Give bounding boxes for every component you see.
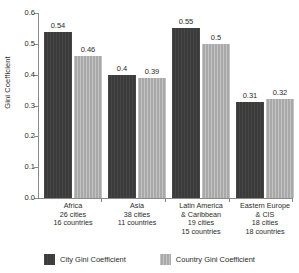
y-tick-label-4: 0.4 xyxy=(25,70,35,79)
gini-coefficient-bar-chart: Gini Coefficient 0.00.10.20.30.40.50.6 0… xyxy=(0,0,299,273)
bar-country-0[interactable]: 0.46 xyxy=(74,56,102,198)
bar-country-3[interactable]: 0.32 xyxy=(266,99,294,198)
y-tick-label-2: 0.2 xyxy=(25,131,35,140)
bar-country-2[interactable]: 0.5 xyxy=(202,44,230,198)
legend-label-city: City Gini Coefficient xyxy=(60,255,126,264)
legend-label-country: Country Gini Coefficient xyxy=(176,255,255,264)
bar-value-label: 0.55 xyxy=(179,17,194,26)
y-tick-label-0: 0.0 xyxy=(25,193,35,202)
bar-city-2[interactable]: 0.55 xyxy=(172,28,200,198)
y-tick-label-6: 0.6 xyxy=(25,8,35,17)
legend-swatch-city xyxy=(44,254,55,265)
bar-country-1[interactable]: 0.39 xyxy=(138,78,166,198)
y-tick-label-5: 0.5 xyxy=(25,39,35,48)
bar-value-label: 0.46 xyxy=(81,45,96,54)
y-tick-label-3: 0.3 xyxy=(25,101,35,110)
legend-swatch-country xyxy=(160,254,171,265)
bar-value-label: 0.4 xyxy=(117,64,127,73)
chart-legend: City Gini Coefficient Country Gini Coeff… xyxy=(0,254,299,265)
legend-item-country[interactable]: Country Gini Coefficient xyxy=(160,254,255,265)
bar-city-3[interactable]: 0.31 xyxy=(236,102,264,198)
y-axis-title: Gini Coefficient xyxy=(3,43,12,123)
chart-title xyxy=(0,0,299,5)
y-tick-label-1: 0.1 xyxy=(25,162,35,171)
bar-value-label: 0.39 xyxy=(145,67,160,76)
category-label-3: Eastern Europe & CIS 18 cities 18 countr… xyxy=(222,202,299,236)
bar-value-label: 0.54 xyxy=(51,21,66,30)
bar-city-1[interactable]: 0.4 xyxy=(108,75,136,198)
bar-value-label: 0.5 xyxy=(211,33,221,42)
legend-item-city[interactable]: City Gini Coefficient xyxy=(44,254,126,265)
bar-value-label: 0.31 xyxy=(243,91,258,100)
bar-city-0[interactable]: 0.54 xyxy=(44,32,72,199)
bar-value-label: 0.32 xyxy=(273,88,288,97)
